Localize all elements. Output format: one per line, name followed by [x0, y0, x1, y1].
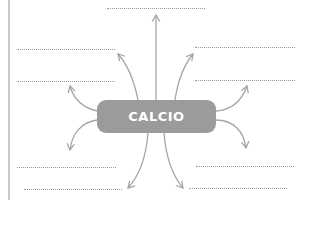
- arrow-down-right: [164, 133, 183, 188]
- arrow-right-down: [216, 120, 246, 148]
- arrow-down-left: [128, 133, 148, 188]
- central-topic-node: CALCIO: [97, 100, 216, 133]
- arrow-upper-right: [175, 54, 193, 100]
- arrow-left-up: [70, 86, 97, 111]
- arrow-right-up: [216, 86, 247, 111]
- central-topic-label: CALCIO: [128, 109, 184, 124]
- arrow-upper-left: [118, 54, 138, 100]
- arrow-left-down: [70, 120, 97, 150]
